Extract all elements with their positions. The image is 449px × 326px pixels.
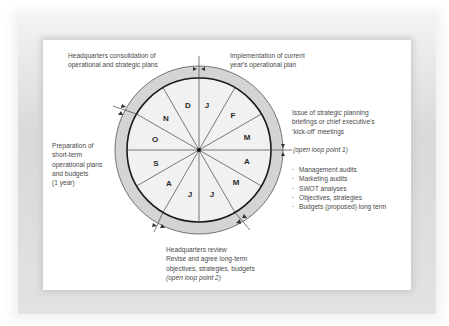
annotation-line: Headquarters consolidation of (68, 51, 158, 60)
month-label-dec: D (185, 101, 191, 110)
audit-bullet-list: Management audits Marketing audits SWOT … (292, 165, 386, 211)
annotation-short-term-preparation: Preparation of short-term operational pl… (52, 141, 102, 187)
annotation-line: Preparation of (52, 141, 102, 150)
annotation-line: short-term (52, 150, 102, 159)
month-label-nov: N (163, 114, 169, 123)
annotation-line: and budgets (52, 169, 102, 178)
month-label-jul: J (188, 190, 192, 199)
annotation-strategic-briefings: Issue of strategic planning briefings or… (292, 108, 375, 136)
annotation-line: Implementation of current (230, 51, 305, 60)
open-loop-point-1: (open loop point 1) (293, 145, 348, 154)
annotation-line: Issue of strategic planning (292, 108, 375, 117)
month-label-feb: F (231, 111, 236, 120)
month-label-jun: J (210, 190, 214, 199)
annotation-line: objectives, strategies, budgets (166, 264, 255, 273)
annotation-line: year's operational plan (230, 60, 305, 69)
annotation-line: Revise and agree long-term (166, 254, 255, 263)
month-label-jan: J (205, 101, 209, 110)
open-loop-point-2: (open loop point 2) (166, 273, 255, 282)
annotation-line: ‘kick-off’ meetings (292, 127, 375, 136)
bullet-item: Marketing audits (292, 174, 386, 183)
annotation-line: (1 year) (52, 178, 102, 187)
annotation-line: operational and strategic plans (68, 60, 158, 69)
annotation-hq-consolidation: Headquarters consolidation of operationa… (68, 51, 158, 70)
annotation-line: Headquarters review (166, 245, 255, 254)
month-label-apr: A (244, 157, 250, 166)
annotation-hq-review: Headquarters review Revise and agree lon… (166, 245, 255, 282)
month-label-mar: M (244, 133, 251, 142)
month-label-oct: O (152, 135, 158, 144)
bullet-item: Management audits (292, 165, 386, 174)
month-label-sep: S (153, 159, 159, 168)
center-dot (197, 148, 201, 152)
annotation-line: briefings or chief executive's (292, 117, 375, 126)
annotation-line: operational plans (52, 160, 102, 169)
month-label-may: M (233, 178, 240, 187)
bullet-item: Budgets (proposed) long term (292, 202, 386, 211)
month-label-aug: A (166, 179, 172, 188)
bullet-item: SWOT analyses (292, 184, 386, 193)
annotation-implementation: Implementation of current year's operati… (230, 51, 305, 70)
bullet-item: Objectives, strategies (292, 193, 386, 202)
